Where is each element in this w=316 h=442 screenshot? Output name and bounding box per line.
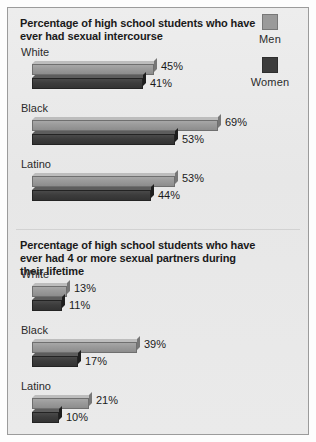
bar-shape	[32, 64, 154, 75]
bar-top-facet	[32, 395, 92, 398]
bar-value-label: 69%	[225, 116, 247, 128]
bar-side-facet	[89, 392, 92, 406]
bar-side-facet	[59, 406, 62, 420]
bar-face	[32, 356, 78, 367]
legend-swatch-men	[262, 14, 278, 30]
bar-shape	[32, 120, 218, 131]
bar-shape	[32, 78, 143, 89]
bar-group: White13%11%	[8, 268, 308, 324]
bar-shape	[32, 190, 151, 201]
bar-top-facet	[32, 283, 70, 286]
bar-group: Black69%53%	[8, 102, 308, 158]
bar-value-label: 53%	[182, 133, 204, 145]
bar-top-facet	[32, 173, 178, 176]
bar-top-facet	[32, 353, 81, 356]
bar-value-label: 45%	[161, 60, 183, 72]
bar-value-label: 17%	[85, 355, 107, 367]
bar-group-label: Black	[21, 324, 48, 336]
bar-side-facet	[137, 336, 140, 350]
bar-top-facet	[32, 131, 178, 134]
bar-side-facet	[67, 280, 70, 294]
bar-side-facet	[175, 170, 178, 184]
section-divider	[16, 229, 300, 230]
bar-side-facet	[175, 128, 178, 142]
bar-shape	[32, 412, 59, 423]
bar-value-label: 39%	[144, 338, 166, 350]
bar-group-label: Black	[21, 102, 48, 114]
bar-shape	[32, 356, 78, 367]
bar-face	[32, 134, 175, 145]
bar-top-facet	[32, 117, 221, 120]
bar-group-label: Latino	[21, 158, 51, 170]
section-title: Percentage of high school students who h…	[20, 17, 260, 43]
bar-groups: White13%11%Black39%17%Latino21%10%	[8, 268, 308, 435]
bar-side-facet	[151, 184, 154, 198]
bar-top-facet	[32, 75, 146, 78]
bar-value-label: 44%	[158, 189, 180, 201]
bar-value-label: 41%	[150, 77, 172, 89]
bar-value-label: 53%	[182, 172, 204, 184]
bar-group: Black39%17%	[8, 324, 308, 380]
bar-top-facet	[32, 409, 62, 412]
bar-groups: White45%41%Black69%53%Latino53%44%	[8, 46, 308, 214]
bar-value-label: 10%	[66, 411, 88, 423]
bar-top-facet	[32, 61, 157, 64]
bar-shape	[32, 134, 175, 145]
bar-shape	[32, 342, 137, 353]
bar-face	[32, 64, 154, 75]
bar-group: Latino21%10%	[8, 380, 308, 435]
bar-top-facet	[32, 339, 140, 342]
bar-group-label: White	[21, 268, 49, 280]
bar-face	[32, 300, 62, 311]
bar-face	[32, 78, 143, 89]
bar-side-facet	[154, 58, 157, 72]
bar-value-label: 21%	[96, 394, 118, 406]
bar-value-label: 13%	[74, 282, 96, 294]
bar-value-label: 11%	[69, 299, 90, 311]
bar-face	[32, 412, 59, 423]
bar-face	[32, 190, 151, 201]
chart-panel: Men Women Percentage of high school stud…	[7, 7, 309, 435]
bar-group-label: White	[21, 46, 49, 58]
bar-face	[32, 342, 137, 353]
bar-side-facet	[143, 72, 146, 86]
bar-top-facet	[32, 187, 154, 190]
bar-top-facet	[32, 297, 65, 300]
bar-side-facet	[78, 350, 81, 364]
bar-group: White45%41%	[8, 46, 308, 102]
bar-group-label: Latino	[21, 380, 51, 392]
bar-side-facet	[62, 294, 65, 308]
bar-shape	[32, 300, 62, 311]
bar-face	[32, 120, 218, 131]
bar-group: Latino53%44%	[8, 158, 308, 214]
bar-side-facet	[218, 114, 221, 128]
chart-figure: Men Women Percentage of high school stud…	[0, 0, 316, 442]
